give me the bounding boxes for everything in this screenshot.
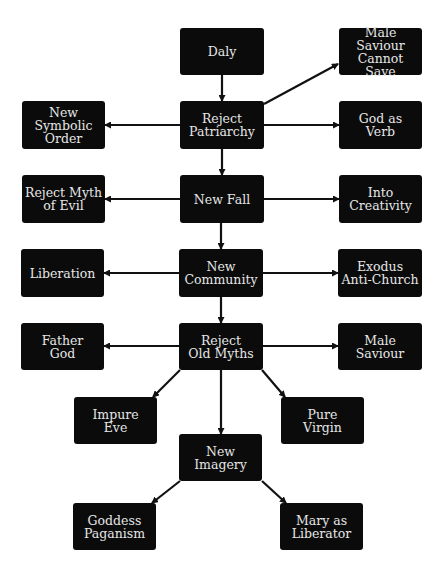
node-reject-patriarchy: Reject Patriarchy [180, 101, 264, 149]
node-daly: Daly [180, 28, 264, 75]
node-into-creativity: Into Creativity [339, 175, 422, 223]
node-male-saviour: Male Saviour [338, 323, 422, 370]
node-reject-myth-of-evil: Reject Myth of Evil [22, 175, 105, 223]
edge-reject-old-myths-to-pure-virgin [262, 370, 285, 397]
edge-reject-patriarchy-to-male-saviour-cannot-save [264, 64, 338, 104]
diagram-canvas: Daly Male Saviour Cannot Save Reject Pat… [0, 0, 444, 578]
node-goddess-paganism: Goddess Paganism [73, 503, 156, 550]
node-god-as-verb: God as Verb [339, 101, 422, 149]
edge-new-imagery-to-goddess-paganism [152, 481, 180, 503]
node-exodus-anti-church: Exodus Anti-Church [338, 249, 422, 297]
node-new-imagery: New Imagery [179, 434, 262, 481]
edge-new-imagery-to-mary-as-liberator [262, 481, 286, 503]
node-mary-as-liberator: Mary as Liberator [280, 503, 363, 550]
node-new-symbolic-order: New Symbolic Order [22, 101, 105, 149]
node-new-community: New Community [179, 249, 263, 297]
node-father-god: Father God [21, 323, 104, 370]
node-impure-eve: Impure Eve [74, 397, 157, 444]
node-liberation: Liberation [21, 249, 104, 297]
node-male-saviour-cannot-save: Male Saviour Cannot Save [339, 28, 422, 75]
node-new-fall: New Fall [180, 175, 264, 223]
edge-reject-old-myths-to-impure-eve [153, 370, 180, 397]
node-reject-old-myths: Reject Old Myths [179, 323, 263, 370]
node-pure-virgin: Pure Virgin [281, 397, 364, 444]
